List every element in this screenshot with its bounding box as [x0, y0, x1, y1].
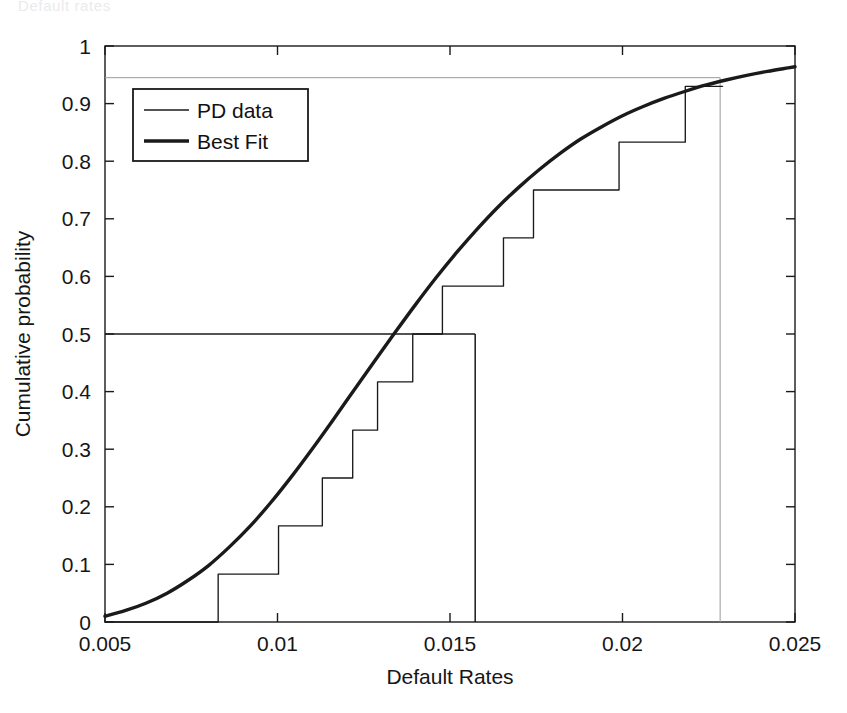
y-tick-label: 0.5 [62, 323, 91, 346]
y-tick-label: 0.3 [62, 438, 91, 461]
series-pd-data [105, 86, 723, 622]
x-tick-label: 0.02 [602, 632, 643, 655]
x-tick-label: 0.005 [79, 632, 132, 655]
y-tick-label: 0.7 [62, 207, 91, 230]
y-tick-label: 0.8 [62, 150, 91, 173]
legend-label-pd-data: PD data [197, 99, 273, 122]
x-axis-title: Default Rates [386, 665, 513, 688]
x-tick-label: 0.01 [257, 632, 298, 655]
y-axis-title: Cumulative probability [11, 230, 34, 437]
y-tick-label: 0.9 [62, 92, 91, 115]
cumulative-probability-chart: 00.10.20.30.40.50.60.70.80.910.0050.010.… [0, 0, 847, 713]
figure-container: Default rates 00.10.20.30.40.50.60.70.80… [0, 0, 847, 713]
y-tick-label: 0.4 [62, 380, 92, 403]
legend-box[interactable]: PD dataBest Fit [133, 89, 308, 161]
y-tick-label: 0.2 [62, 495, 91, 518]
y-tick-label: 0 [79, 611, 91, 634]
x-tick-label: 0.025 [769, 632, 822, 655]
x-tick-label: 0.015 [424, 632, 477, 655]
legend-label-best-fit: Best Fit [197, 130, 268, 153]
y-tick-label: 0.6 [62, 265, 91, 288]
y-tick-label: 1 [79, 35, 91, 58]
y-tick-label: 0.1 [62, 553, 91, 576]
